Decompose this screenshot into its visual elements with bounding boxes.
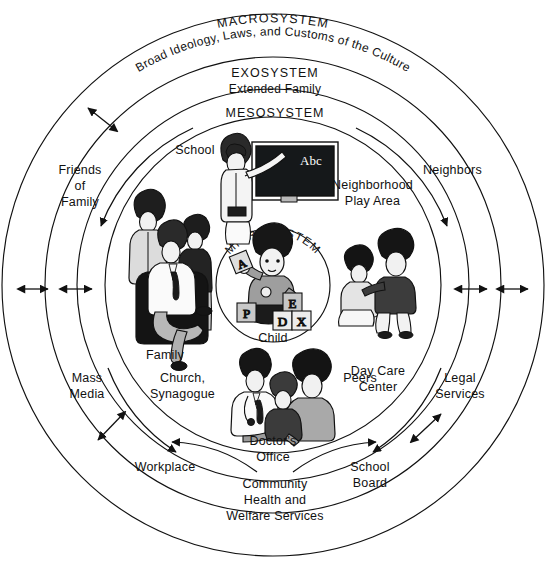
node-friends-of-family-l3: Family [40, 195, 120, 210]
node-community-l1: Community [190, 477, 360, 492]
block-letter-p: P [243, 306, 250, 321]
node-mass-media-l2: Media [55, 387, 119, 402]
node-school-label: School [160, 143, 230, 158]
node-mass-media-l1: Mass [55, 371, 119, 386]
day-care-illustration [339, 228, 417, 338]
exosystem-sublabel: Extended Family [0, 82, 550, 96]
node-neighborhood-play-area-l2: Play Area [310, 194, 435, 209]
doctors-office-illustration [231, 348, 335, 446]
node-school-board-l1: School [330, 460, 410, 475]
node-child-label: Child [233, 331, 313, 346]
exosystem-label: EXOSYSTEM [0, 66, 550, 81]
node-church-synagogue-l2: Synagogue [130, 387, 235, 402]
node-family-label: Family [125, 348, 205, 363]
node-neighbors-label: Neighbors [405, 163, 500, 178]
arrow-diagonal-bottom-left [98, 412, 125, 440]
node-legal-services-l1: Legal [415, 371, 505, 386]
block-letter-x: X [297, 314, 307, 329]
node-peers-label: Peers [325, 371, 395, 386]
ecological-systems-diagram: MACROSYSTEM Broad Ideology, Laws, and Cu… [0, 0, 550, 565]
node-doctors-office-l2: Office [228, 450, 318, 465]
block-letter-d: D [278, 314, 287, 329]
node-friends-of-family-l1: Friends [40, 163, 120, 178]
arrow-diagonal-bottom-right [411, 414, 441, 442]
node-community-l2: Health and [190, 493, 360, 508]
node-legal-services-l2: Services [415, 387, 505, 402]
node-workplace-label: Workplace [110, 460, 220, 475]
node-church-synagogue-l1: Church, [130, 371, 235, 386]
node-doctors-office-l1: Doctor's [228, 434, 318, 449]
node-neighborhood-play-area-l1: Neighborhood [310, 178, 435, 193]
family-illustration [129, 189, 212, 370]
node-friends-of-family-l2: of [40, 179, 120, 194]
mesosystem-label: MESOSYSTEM [0, 106, 550, 121]
node-community-l3: Welfare Services [190, 509, 360, 524]
blackboard-text: Abc [300, 153, 322, 168]
block-letter-e: E [289, 296, 297, 311]
